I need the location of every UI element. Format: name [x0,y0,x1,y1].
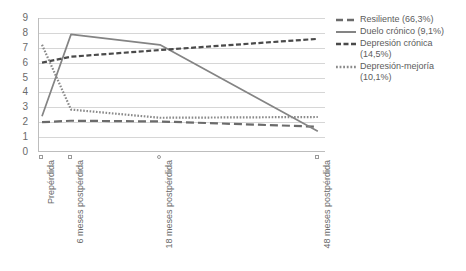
y-tick-label: 9 [22,13,28,23]
series-lines [38,18,325,152]
line-chart: 9876543210 Prepérdida6 meses postpérdida… [0,0,466,271]
y-axis: 9876543210 [0,0,34,271]
x-tick-mark [39,155,43,159]
legend-label: Duelo crónico (9,1%) [360,26,444,37]
x-tick-label: 48 meses postpérdida [322,160,332,249]
x-tick-mark [157,155,161,159]
x-tick-mark [315,155,319,159]
plot-area [38,18,325,152]
y-tick-label: 8 [22,28,28,38]
x-tick-mark [68,155,72,159]
x-tick-label: 18 meses postpérdida [164,160,174,249]
legend-item[interactable]: Depresión-mejoría (10,1%) [336,61,466,83]
series-line [42,121,318,127]
chart-legend: Resiliente (66,3%)Duelo crónico (9,1%)De… [336,14,466,84]
legend-item[interactable]: Depresión crónica (14,5%) [336,38,466,60]
y-tick-label: 3 [22,102,28,112]
y-tick-label: 7 [22,43,28,53]
y-tick-label: 0 [22,147,28,157]
legend-label: Resiliente (66,3%) [360,14,434,25]
y-tick-label: 1 [22,132,28,142]
legend-marker-icon [336,61,356,72]
y-tick-label: 5 [22,73,28,83]
series-line [42,39,318,63]
legend-label: Depresión-mejoría (10,1%) [360,61,434,83]
x-tick-label: Prepérdida [46,160,56,204]
legend-marker-icon [336,14,356,25]
legend-label: Depresión crónica (14,5%) [360,38,433,60]
x-axis-labels: Prepérdida6 meses postpérdida18 meses po… [38,160,338,270]
y-tick-label: 2 [22,117,28,127]
y-tick-label: 6 [22,58,28,68]
y-tick-label: 4 [22,87,28,97]
legend-marker-icon [336,38,356,49]
legend-item[interactable]: Duelo crónico (9,1%) [336,26,466,37]
x-tick-label: 6 meses postpérdida [75,160,85,244]
legend-item[interactable]: Resiliente (66,3%) [336,14,466,25]
legend-marker-icon [336,26,356,37]
x-axis-ticks [38,152,325,160]
